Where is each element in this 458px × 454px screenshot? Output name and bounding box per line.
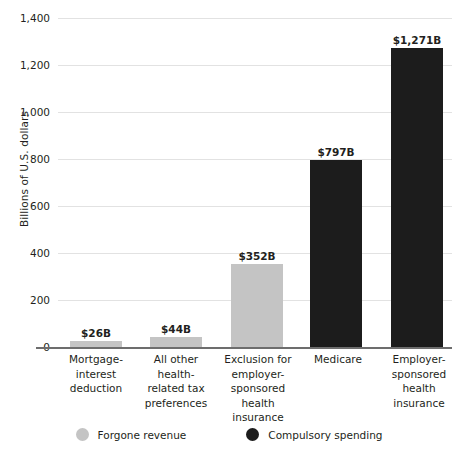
x-axis-category-label: Mortgage-interestdeduction: [58, 352, 134, 396]
x-axis-line: [36, 347, 452, 349]
category-label-line: All other: [138, 352, 214, 367]
legend-item-forgone-revenue[interactable]: Forgone revenue: [76, 428, 187, 441]
category-label-line: insurance: [381, 396, 457, 411]
bar-value-label: $797B: [296, 147, 376, 158]
legend: Forgone revenue Compulsory spending: [0, 428, 458, 441]
category-label-line: sponsored: [218, 381, 298, 396]
bar-chart: Billions of U.S. dollars 02004006008001,…: [0, 0, 458, 454]
category-label-line: Employer-: [381, 352, 457, 367]
y-axis-tick-label: 1,000: [0, 107, 50, 118]
y-axis-tick-label: 1,400: [0, 13, 50, 24]
category-label-line: related tax: [138, 381, 214, 396]
gridline: [58, 18, 452, 19]
bar-value-label: $1,271B: [377, 35, 457, 46]
category-label-line: Medicare: [300, 352, 376, 367]
y-axis-title: Billions of U.S. dollars: [18, 69, 30, 269]
bar[interactable]: [310, 160, 362, 347]
category-label-line: employer-: [218, 367, 298, 382]
legend-item-compulsory-spending[interactable]: Compulsory spending: [246, 428, 382, 441]
y-axis-tick-label: 400: [0, 248, 50, 259]
plot-area: [58, 18, 452, 347]
category-label-line: insurance: [218, 410, 298, 425]
y-axis-tick-label: 600: [0, 201, 50, 212]
category-label-line: health-: [138, 367, 214, 382]
category-label-line: sponsored: [381, 367, 457, 382]
x-axis-category-label: Medicare: [300, 352, 376, 367]
legend-swatch-icon: [76, 428, 89, 441]
bar[interactable]: [231, 264, 283, 347]
category-label-line: health: [381, 381, 457, 396]
bar[interactable]: [391, 48, 443, 347]
category-label-line: health: [218, 396, 298, 411]
y-axis-tick-label: 800: [0, 154, 50, 165]
category-label-line: deduction: [58, 381, 134, 396]
x-axis-category-label: Employer-sponsoredhealthinsurance: [381, 352, 457, 410]
category-label-line: preferences: [138, 396, 214, 411]
bar-value-label: $44B: [136, 324, 216, 335]
bar-value-label: $352B: [217, 251, 297, 262]
category-label-line: interest: [58, 367, 134, 382]
bar[interactable]: [150, 337, 202, 347]
bar-value-label: $26B: [56, 328, 136, 339]
x-axis-category-label: Exclusion foremployer-sponsoredhealthins…: [218, 352, 298, 425]
legend-label: Forgone revenue: [98, 429, 187, 441]
category-label-line: Mortgage-: [58, 352, 134, 367]
y-axis-tick-label: 1,200: [0, 60, 50, 71]
category-label-line: Exclusion for: [218, 352, 298, 367]
y-axis-tick-label: 200: [0, 295, 50, 306]
x-axis-category-label: All otherhealth-related taxpreferences: [138, 352, 214, 410]
legend-swatch-icon: [246, 428, 259, 441]
legend-label: Compulsory spending: [268, 429, 382, 441]
